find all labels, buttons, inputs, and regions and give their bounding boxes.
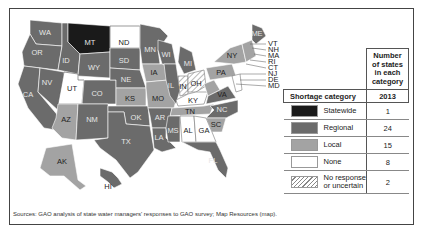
swatch-local xyxy=(291,139,318,151)
svg-text:AR: AR xyxy=(155,113,166,122)
svg-text:AL: AL xyxy=(183,126,192,135)
svg-text:WA: WA xyxy=(39,28,51,37)
svg-text:GA: GA xyxy=(199,126,210,135)
svg-text:NC: NC xyxy=(217,105,228,114)
svg-text:MS: MS xyxy=(167,126,178,135)
svg-text:NV: NV xyxy=(42,78,52,87)
svg-text:IL: IL xyxy=(168,81,174,90)
state-NJ-DE-MD xyxy=(232,74,242,92)
legend-row-statewide: Statewide 1 xyxy=(284,103,409,120)
legend-row-no-response: No responseor uncertain 2 xyxy=(284,171,409,194)
svg-text:KY: KY xyxy=(188,96,198,105)
svg-text:AZ: AZ xyxy=(61,115,71,124)
svg-text:OK: OK xyxy=(131,113,142,122)
svg-text:KS: KS xyxy=(125,94,135,103)
svg-text:MI: MI xyxy=(184,59,192,68)
legend-count-header: Number of states in each category xyxy=(367,49,409,90)
legend-year-header: 2013 xyxy=(367,90,409,103)
svg-text:SC: SC xyxy=(211,120,222,129)
svg-text:SD: SD xyxy=(119,56,130,65)
svg-text:UT: UT xyxy=(67,84,77,93)
svg-text:ND: ND xyxy=(119,38,130,47)
svg-text:OH: OH xyxy=(190,79,201,88)
legend-row-regional: Regional 24 xyxy=(284,120,409,137)
svg-text:OR: OR xyxy=(31,48,43,57)
state-FL xyxy=(182,142,228,178)
source-note: Sources: GAO analysis of state water man… xyxy=(13,211,277,217)
svg-text:WY: WY xyxy=(88,63,100,72)
svg-text:MD: MD xyxy=(268,81,280,90)
svg-text:ME: ME xyxy=(251,29,262,38)
svg-text:NE: NE xyxy=(121,75,131,84)
legend-table: Number of states in each category Shorta… xyxy=(283,48,409,194)
swatch-no-response xyxy=(291,176,318,188)
svg-text:CO: CO xyxy=(91,89,102,98)
svg-text:CA: CA xyxy=(23,90,33,99)
legend-row-local: Local 15 xyxy=(284,137,409,154)
swatch-regional xyxy=(291,122,318,134)
svg-text:LA: LA xyxy=(154,133,163,142)
legend-row-none: None 8 xyxy=(284,154,409,171)
svg-text:PA: PA xyxy=(216,68,225,77)
swatch-none xyxy=(291,156,318,168)
svg-text:MN: MN xyxy=(144,45,156,54)
swatch-statewide xyxy=(291,105,318,117)
svg-text:MT: MT xyxy=(85,38,96,47)
svg-text:IN: IN xyxy=(179,82,187,91)
legend-category-header: Shortage category xyxy=(284,90,367,103)
svg-text:MO: MO xyxy=(152,94,164,103)
state-AK xyxy=(40,144,86,190)
svg-text:HI: HI xyxy=(104,182,112,191)
svg-text:TX: TX xyxy=(121,137,131,146)
svg-text:WI: WI xyxy=(161,50,170,59)
svg-text:AK: AK xyxy=(57,157,67,166)
svg-text:IA: IA xyxy=(150,68,157,77)
svg-text:NM: NM xyxy=(86,115,98,124)
svg-text:VA: VA xyxy=(217,90,226,99)
svg-text:NY: NY xyxy=(227,51,237,60)
svg-text:FL: FL xyxy=(209,156,218,165)
svg-text:ID: ID xyxy=(62,56,70,65)
svg-text:TN: TN xyxy=(185,107,195,116)
